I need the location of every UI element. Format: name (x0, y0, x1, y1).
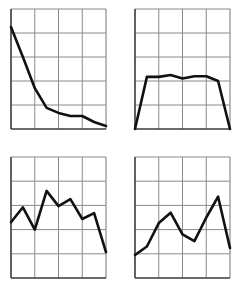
line-chart-bottom-right (0, 0, 240, 288)
chart-panel-bottom-right (0, 0, 120, 144)
